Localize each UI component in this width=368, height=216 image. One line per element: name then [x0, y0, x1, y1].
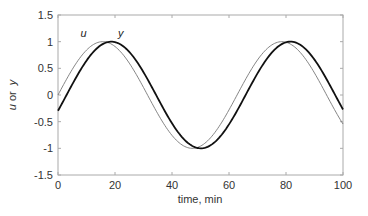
- y-tick-label: 1.5: [38, 9, 53, 21]
- y-axis-label: u or y: [6, 78, 18, 110]
- series-label-y: y: [117, 27, 125, 39]
- y-tick-label: -1: [43, 142, 53, 154]
- y-axis-label-y: y: [6, 78, 18, 86]
- series-line-y: [58, 42, 343, 149]
- y-axis-label-or: or: [6, 88, 18, 104]
- x-axis-label: time, min: [178, 193, 223, 205]
- series-line-u: [58, 42, 343, 149]
- x-tick-label: 40: [166, 179, 178, 191]
- series-labels: uy: [81, 27, 125, 39]
- plot-border: [58, 15, 343, 175]
- x-axis: 020406080100: [55, 15, 352, 191]
- series-label-u: u: [81, 27, 87, 39]
- line-chart: 020406080100 -1.5-1-0.500.511.5 uy time,…: [0, 0, 368, 216]
- y-tick-label: 0.5: [38, 62, 53, 74]
- x-tick-label: 60: [223, 179, 235, 191]
- y-tick-label: 0: [47, 89, 53, 101]
- x-tick-label: 100: [334, 179, 352, 191]
- y-tick-label: -1.5: [34, 169, 53, 181]
- series-group: [58, 42, 343, 149]
- x-tick-label: 80: [280, 179, 292, 191]
- plot-area: [58, 15, 343, 175]
- y-tick-label: -0.5: [34, 116, 53, 128]
- x-tick-label: 0: [55, 179, 61, 191]
- y-tick-label: 1: [47, 36, 53, 48]
- x-tick-label: 20: [109, 179, 121, 191]
